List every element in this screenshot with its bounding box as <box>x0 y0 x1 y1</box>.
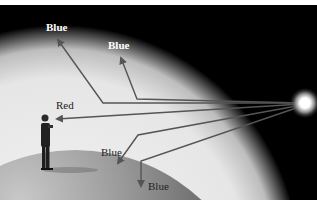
label-ray-4: Blue <box>101 146 122 158</box>
label-ray-2: Blue <box>108 39 129 51</box>
diagram-frame: Blue Blue Red Blue Blue <box>0 5 317 200</box>
scattering-diagram <box>0 5 317 200</box>
label-ray-3: Red <box>56 99 74 111</box>
label-ray-1: Blue <box>46 21 67 33</box>
sun-core <box>300 98 310 108</box>
label-ray-5: Blue <box>148 180 169 192</box>
